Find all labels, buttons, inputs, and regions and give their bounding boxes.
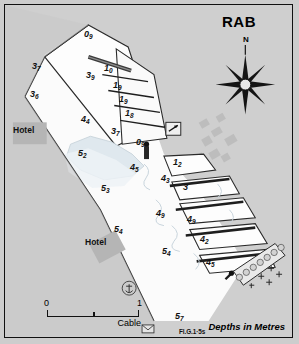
sounding-value: 09 (84, 29, 93, 39)
nautical-chart-image: RAB N Hotel Hotel Fl.G.1·5s 0 1 Cable De… (0, 0, 299, 344)
sounding-value: 54 (162, 246, 171, 256)
light-characteristic-label: Fl.G.1·5s (179, 328, 205, 335)
sounding-value: 36 (30, 89, 39, 99)
sounding-value: 45 (206, 257, 215, 267)
sounding-value: 49 (187, 214, 196, 224)
light-dot (229, 271, 234, 276)
sounding-value: 52 (78, 148, 87, 158)
sounding-value: 43 (161, 173, 170, 183)
sounding-value: 57 (175, 311, 184, 321)
sounding-value: 42 (200, 234, 209, 244)
sounding-value: 18 (125, 108, 134, 118)
sounding-value: 19 (119, 94, 128, 104)
post-office-symbol (142, 325, 154, 333)
north-label: N (243, 35, 249, 44)
sounding-value: 19 (113, 80, 122, 90)
chart-frame: RAB N Hotel Hotel Fl.G.1·5s 0 1 Cable De… (4, 4, 293, 338)
sounding-value: 3 (183, 182, 188, 192)
sounding-value: 44 (81, 114, 90, 124)
sounding-value: 09 (136, 137, 145, 147)
sounding-value: 10 (104, 63, 113, 73)
scale-bar-graphic (47, 310, 139, 317)
sounding-value: 37 (32, 61, 41, 71)
scale-bar: 0 1 Cable (47, 310, 139, 317)
depths-unit-note: Depths in Metres (208, 321, 285, 332)
sounding-value: 39 (86, 70, 95, 80)
sounding-value: 54 (114, 224, 123, 234)
chart-map-graphics (5, 5, 292, 337)
sounding-value: 49 (156, 208, 165, 218)
sounding-value: 45 (130, 162, 139, 172)
land-label-hotel-2: Hotel (85, 237, 106, 247)
land-label-hotel-1: Hotel (13, 125, 34, 135)
sounding-value: 53 (101, 183, 110, 193)
page-title: RAB (222, 13, 256, 30)
sounding-value: 37 (111, 126, 120, 136)
scale-end-label: 1 (137, 298, 142, 308)
view-marker-icon (166, 122, 181, 135)
scale-unit-label: Cable (117, 318, 141, 328)
sounding-value: 12 (173, 157, 182, 167)
scale-start-label: 0 (44, 298, 49, 308)
